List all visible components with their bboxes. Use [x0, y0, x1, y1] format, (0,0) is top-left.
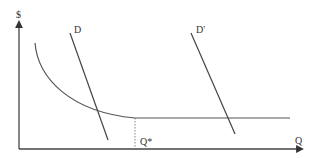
x-axis-label: Q: [295, 135, 303, 146]
supply-demand-diagram: $ Q D D' Q*: [0, 0, 319, 158]
demand-label-d: D: [74, 24, 81, 35]
cost-curve: [35, 43, 290, 118]
y-axis-label: $: [16, 9, 21, 20]
q-star-label: Q*: [140, 136, 152, 147]
demand-label-d-prime: D': [196, 24, 205, 35]
demand-line-d: [70, 33, 108, 140]
demand-line-d-prime: [191, 33, 235, 134]
